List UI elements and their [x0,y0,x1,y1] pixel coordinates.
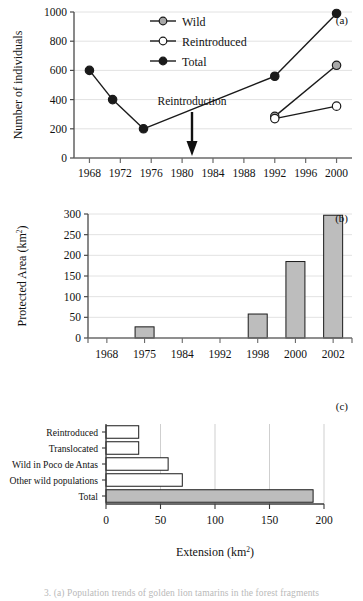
svg-text:Protected Area (km2): Protected Area (km2) [15,225,29,326]
panel-a-series-group [85,9,341,133]
panel-b-svg: 050100150200250300 196819751984199219982… [0,196,363,388]
panel-a-line-chart: 02004006008001000 1968197219761980198419… [0,0,363,196]
panel-b-x-tick-label: 1968 [95,348,118,360]
legend-marker-total [159,57,167,65]
panel-a-y-tick-label: 200 [50,123,68,135]
panel-b-x-tick-label: 2002 [322,348,345,360]
legend-label-total: Total [182,55,207,69]
panel-c-category-label: Reintroduced [46,427,98,438]
panel-b-bars-group [135,215,343,338]
panel-a-line-segment-total [275,13,337,76]
panel-c-category-label: Total [78,491,98,502]
panel-a-y-tick-label: 600 [50,64,68,76]
panel-b-x-tick-label: 1998 [246,348,269,360]
panel-c-x-title-close: ) [250,545,254,559]
panel-b-y-ticks: 050100150200250300 [64,208,88,344]
panel-a-x-tick-label: 1984 [202,167,225,179]
panel-a-y-axis-title: Number of individuals [11,30,25,139]
panel-a-datapoint-total [85,66,93,74]
panel-a-datapoint-reintroduced [332,102,340,110]
panel-c-category-labels: ReintroducedTranslocatedWild in Poco de … [10,427,106,502]
figure-caption-clipped: 3. (a) Population trends of golden lion … [0,586,363,601]
reintroduction-arrow-icon [187,112,198,156]
panel-c-x-tick-label: 100 [206,514,224,526]
panel-b-y-tick-label: 150 [64,270,82,282]
panel-a-svg: 02004006008001000 1968197219761980198419… [0,0,363,196]
legend-marker-wild [159,17,167,25]
panel-c-bar [106,474,182,487]
panel-a-line-segment-total [89,70,112,99]
legend-marker-reintroduced [159,37,167,45]
panel-b-x-tick-label: 1984 [171,348,194,360]
panel-c-x-title-main: Extension (km [176,545,247,559]
panel-b-gridlines [88,214,352,317]
panel-c-x-tick-label: 150 [261,514,279,526]
panel-b-label: (b) [335,212,348,225]
panel-c-label: (c) [336,400,349,413]
panel-c-bar [106,426,139,439]
panel-a-x-tick-label: 1980 [171,167,194,179]
panel-a-datapoint-total [271,72,279,80]
panel-a-datapoint-wild [332,61,340,69]
panel-a-y-tick-label: 800 [50,35,68,47]
panel-a-x-tick-label: 1996 [294,167,317,179]
panel-b-x-tick-label: 2000 [284,348,307,360]
panel-c-category-label: Other wild populations [10,475,99,486]
panel-b-y-title-main: Protected Area (km [15,233,29,327]
panel-b-y-tick-label: 300 [64,208,82,220]
panel-c-bars-group [106,426,313,503]
panel-a-datapoint-total [139,125,147,133]
panel-a-y-tick-label: 400 [50,94,68,106]
panel-a-legend: WildReintroducedTotal [150,15,247,69]
panel-c-x-tick-label: 50 [155,514,167,526]
panel-b-bar [324,215,343,338]
panel-c-category-label: Translocated [49,443,98,454]
panel-c-x-tick-label: 0 [103,514,109,526]
panel-b-y-tick-label: 50 [70,311,82,323]
panel-b-bar-chart: 050100150200250300 196819751984199219982… [0,196,363,388]
panel-c-bar [106,490,313,503]
panel-b-y-axis-title: Protected Area (km2) [15,225,29,326]
legend-label-reintroduced: Reintroduced [182,35,247,49]
panel-a-x-tick-label: 1988 [232,167,255,179]
panel-a-x-tick-label: 1968 [78,167,101,179]
panel-c-horizontal-bar-chart: ReintroducedTranslocatedWild in Poco de … [0,388,363,583]
panel-a-y-ticks: 02004006008001000 [44,6,74,164]
panel-a-y-tick-label: 1000 [44,6,67,18]
panel-b-bar [135,327,154,338]
panel-a-y-tick-label: 0 [61,152,67,164]
panel-a-x-tick-label: 2000 [325,167,348,179]
panel-a-x-tick-label: 1976 [140,167,163,179]
panel-c-category-label: Wild in Poco de Antas [12,459,98,470]
panel-b-y-tick-label: 200 [64,249,82,261]
panel-b-x-tick-label: 1975 [133,348,156,360]
panel-a-datapoint-total [108,95,116,103]
reintroduction-annotation-label: Reintroduction [158,95,227,107]
panel-a-x-tick-label: 1992 [263,167,286,179]
panel-a-label: (a) [336,14,349,27]
legend-label-wild: Wild [182,15,206,29]
panel-a-x-tick-label: 1972 [109,167,132,179]
panel-a-line-segment-total [113,100,144,129]
panel-b-y-tick-label: 250 [64,229,82,241]
panel-c-svg: ReintroducedTranslocatedWild in Poco de … [0,388,363,583]
panel-b-x-tick-labels: 1968197519841992199820002002 [95,338,345,360]
panel-b-bar [286,262,305,338]
figure-container: 02004006008001000 1968197219761980198419… [0,0,363,601]
panel-c-bar [106,458,168,471]
panel-a-datapoint-reintroduced [271,114,279,122]
panel-c-x-tick-label: 200 [315,514,333,526]
panel-a-x-ticks: 196819721976198019841988199219962000 [78,158,348,179]
panel-b-bar [248,314,267,338]
panel-b-y-tick-label: 0 [75,332,81,344]
panel-c-x-ticks: 050100150200 [103,504,333,526]
panel-b-y-title-close: ) [15,225,29,229]
panel-b-x-tick-label: 1992 [209,348,232,360]
panel-c-bar [106,442,139,455]
panel-c-x-axis-title: Extension (km2) [176,545,254,559]
panel-b-y-tick-label: 100 [64,291,82,303]
